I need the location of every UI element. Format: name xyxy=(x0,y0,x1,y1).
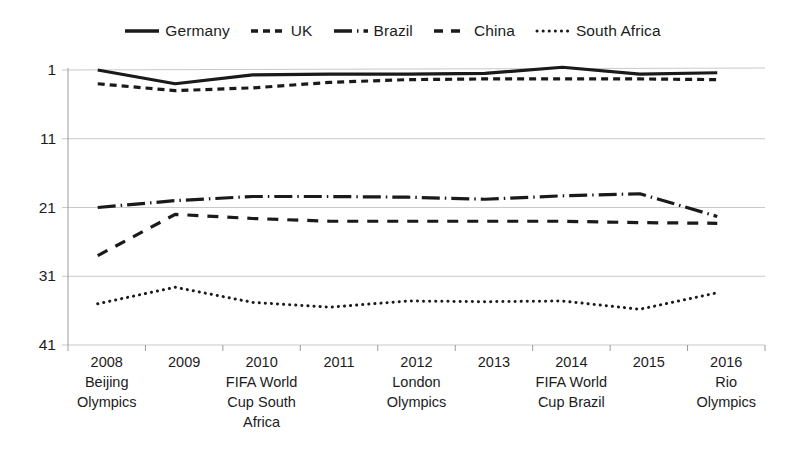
x-tick-label: 2016RioOlympics xyxy=(688,352,765,432)
x-tick-event-line: Beijing xyxy=(68,372,145,392)
x-tick-year: 2013 xyxy=(455,352,532,372)
gridlines xyxy=(62,68,765,345)
x-tick-label: 2014FIFA WorldCup Brazil xyxy=(533,352,610,432)
x-tick-event-line: Africa xyxy=(223,412,300,432)
x-tick-event-line: Olympics xyxy=(378,392,455,412)
x-tick-event-line: FIFA World xyxy=(533,372,610,392)
y-tick-label: 41 xyxy=(12,336,56,354)
x-tick-label: 2015 xyxy=(610,352,687,432)
x-tick-event-line: FIFA World xyxy=(223,372,300,392)
y-axis-tick-labels: 111213141 xyxy=(12,0,56,451)
y-tick-label: 1 xyxy=(12,61,56,79)
x-tick-year: 2014 xyxy=(533,352,610,372)
x-tick-year: 2011 xyxy=(300,352,377,372)
x-tick-label: 2013 xyxy=(455,352,532,432)
x-tick-event-line: London xyxy=(378,372,455,392)
x-tick-year: 2012 xyxy=(378,352,455,372)
x-tick-event-line: Cup Brazil xyxy=(533,392,610,412)
x-tick-year: 2015 xyxy=(610,352,687,372)
x-axis-labels: 2008BeijingOlympics20092010FIFA WorldCup… xyxy=(68,352,765,432)
series-line-china xyxy=(98,214,718,255)
x-tick-event-line: Cup South xyxy=(223,392,300,412)
data-series-group xyxy=(98,67,718,309)
x-tick-label: 2011 xyxy=(300,352,377,432)
rank-trend-chart: Germany UK Brazil China South Africa xyxy=(0,0,785,451)
x-tick-marks xyxy=(68,345,765,351)
x-tick-label: 2010FIFA WorldCup SouthAfrica xyxy=(223,352,300,432)
x-tick-event-line: Rio xyxy=(688,372,765,392)
x-tick-label: 2009 xyxy=(145,352,222,432)
y-tick-label: 21 xyxy=(12,199,56,217)
x-tick-event-line: Olympics xyxy=(688,392,765,412)
x-tick-event-line: Olympics xyxy=(68,392,145,412)
x-tick-year: 2016 xyxy=(688,352,765,372)
x-tick-label: 2008BeijingOlympics xyxy=(68,352,145,432)
x-tick-year: 2009 xyxy=(145,352,222,372)
y-tick-label: 31 xyxy=(12,267,56,285)
x-tick-label: 2012LondonOlympics xyxy=(378,352,455,432)
series-line-south-africa xyxy=(98,287,718,309)
y-tick-label: 11 xyxy=(12,130,56,148)
series-line-brazil xyxy=(98,194,718,217)
x-tick-year: 2010 xyxy=(223,352,300,372)
x-tick-year: 2008 xyxy=(68,352,145,372)
